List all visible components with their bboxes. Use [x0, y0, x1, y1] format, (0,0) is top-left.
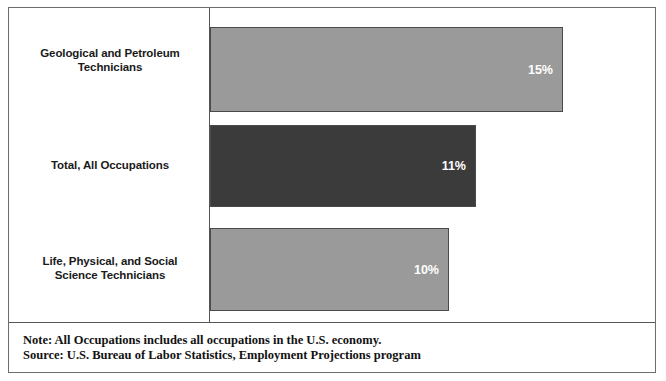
bar-category-label: Geological and Petroleum Technicians	[17, 46, 203, 74]
bar-geological-and-petroleum-technicians[interactable]: 15%	[210, 27, 563, 112]
bar-category-label-line1: Total, All Occupations	[17, 158, 203, 172]
bar-value-label: 11%	[442, 159, 466, 173]
bar-category-label-line2: Science Technicians	[17, 268, 203, 282]
bar-category-label-line1: Geological and Petroleum	[17, 46, 203, 60]
footnote-note: Note: All Occupations includes all occup…	[23, 333, 655, 348]
plot-area: Geological and Petroleum Technicians 15%…	[9, 8, 655, 323]
chart-footer: Note: All Occupations includes all occup…	[9, 324, 655, 372]
bar-category-label-line2: Technicians	[17, 60, 203, 74]
bar-value-label: 15%	[528, 63, 553, 77]
bar-value-label: 10%	[414, 263, 439, 277]
bar-row: Geological and Petroleum Technicians 15%	[9, 20, 655, 112]
chart-figure: Geological and Petroleum Technicians 15%…	[8, 7, 656, 373]
bar-row: Life, Physical, and Social Science Techn…	[9, 228, 655, 320]
bar-category-label-line1: Life, Physical, and Social	[17, 254, 203, 268]
bar-row: Total, All Occupations 11%	[9, 125, 655, 214]
bar-category-label: Life, Physical, and Social Science Techn…	[17, 254, 203, 282]
bar-track: 10%	[210, 228, 655, 311]
bar-life-physical-and-social-science-technicians[interactable]: 10%	[210, 228, 449, 311]
bar-category-label: Total, All Occupations	[17, 158, 203, 172]
footnote-source: Source: U.S. Bureau of Labor Statistics,…	[23, 348, 655, 363]
bar-total-all-occupations[interactable]: 11%	[210, 125, 476, 207]
bar-track: 15%	[210, 27, 655, 112]
bar-track: 11%	[210, 125, 655, 207]
